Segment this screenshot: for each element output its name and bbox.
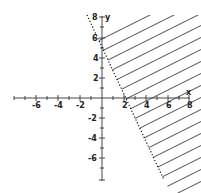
- svg-text:6: 6: [92, 34, 98, 43]
- svg-text:-2: -2: [76, 101, 85, 110]
- svg-text:8: 8: [92, 13, 98, 22]
- svg-text:-4: -4: [88, 134, 97, 143]
- svg-text:2: 2: [122, 101, 128, 110]
- y-axis-label: y: [105, 13, 111, 22]
- svg-text:-6: -6: [32, 101, 41, 110]
- x-axis-label: x: [186, 88, 192, 97]
- hatched-region: [60, 0, 201, 193]
- x-tick-labels: -6 -4 -2 2 4 6 8: [32, 101, 193, 110]
- svg-text:2: 2: [93, 74, 99, 83]
- svg-text:6: 6: [166, 101, 172, 110]
- svg-text:4: 4: [93, 54, 99, 63]
- svg-text:8: 8: [187, 101, 193, 110]
- inequality-graph: -6 -4 -2 2 4 6 8 8 6 4 2 -2 -4 -6 y x: [0, 0, 201, 193]
- svg-text:-6: -6: [88, 154, 97, 163]
- svg-text:4: 4: [144, 101, 150, 110]
- y-axis: [99, 16, 105, 181]
- svg-text:-2: -2: [88, 114, 97, 123]
- svg-text:-4: -4: [54, 101, 63, 110]
- y-tick-labels: 8 6 4 2 -2 -4 -6: [88, 13, 99, 163]
